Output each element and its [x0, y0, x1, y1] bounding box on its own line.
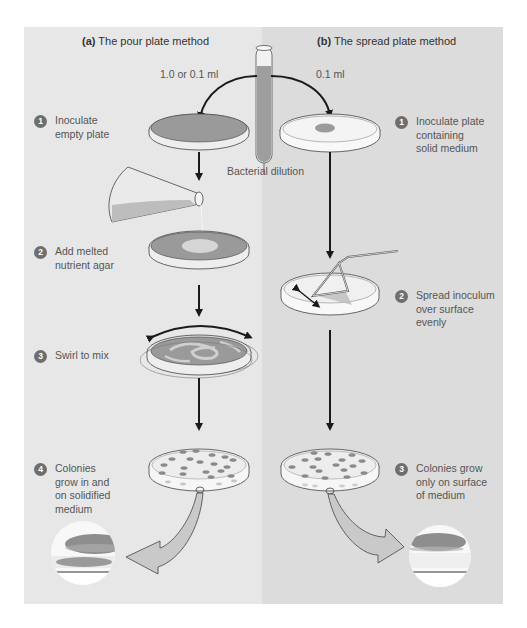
callout-arrow-right-icon: [328, 494, 404, 563]
step-badge: 2: [34, 246, 47, 259]
step-badge: 3: [34, 350, 47, 363]
step-text: Inoculate plate containing solid medium: [416, 115, 484, 156]
step-badge: 3: [395, 463, 408, 476]
pour-step-2: 2 Add melted nutrient agar: [34, 245, 114, 272]
spread-step-3: 3 Colonies grow only on surface of mediu…: [395, 462, 487, 503]
curved-arrow-right-icon: [271, 76, 330, 115]
spread-step-2: 2 Spread inoculum over surface evenly: [395, 289, 495, 330]
flask-icon: [109, 167, 203, 235]
spread-plate-title: (b) The spread plate method: [317, 35, 456, 47]
step-text: Add melted nutrient agar: [55, 245, 114, 272]
step-text: Inoculate empty plate: [55, 114, 109, 141]
spread-step-1: 1 Inoculate plate containing solid mediu…: [395, 115, 484, 156]
petri-dish-step1-right-icon: [280, 114, 380, 152]
step-badge: 4: [34, 463, 47, 476]
step-text: Colonies grow in and on solidified mediu…: [55, 462, 110, 516]
pour-step-3: 3 Swirl to mix: [34, 349, 109, 363]
callout-arrow-left-icon: [126, 493, 203, 574]
step-badge: 1: [395, 116, 408, 129]
step-text: Colonies grow only on surface of medium: [416, 462, 487, 503]
pour-plate-title: (a) The pour plate method: [82, 35, 209, 47]
magnified-view-left-icon: [50, 521, 125, 588]
pour-step-4: 4 Colonies grow in and on solidified med…: [34, 462, 110, 516]
petri-dish-colonies-right-icon: [281, 449, 379, 494]
step-badge: 2: [395, 290, 408, 303]
petri-dish-colonies-left-icon: [149, 449, 249, 493]
bacterial-dilution-label: Bacterial dilution: [227, 165, 304, 179]
petri-dish-swirl-icon: [140, 335, 258, 378]
curved-arrow-left-icon: [200, 76, 257, 117]
petri-dish-step1-left-icon: [149, 114, 249, 150]
pour-volume-label: 1.0 or 0.1 ml: [160, 68, 218, 82]
magnified-view-right-icon: [405, 525, 475, 589]
test-tube-icon: [256, 46, 272, 175]
spread-volume-label: 0.1 ml: [316, 68, 345, 82]
step-badge: 1: [34, 115, 47, 128]
step-text: Swirl to mix: [55, 349, 109, 363]
petri-dish-spreader-icon: [281, 251, 398, 315]
step-text: Spread inoculum over surface evenly: [416, 289, 495, 330]
pour-step-1: 1 Inoculate empty plate: [34, 114, 109, 141]
petri-dish-step2-left-icon: [149, 231, 249, 269]
